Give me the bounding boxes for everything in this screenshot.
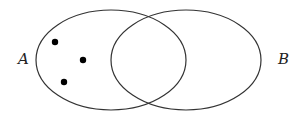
point-3 [61, 79, 67, 85]
point-2 [80, 57, 86, 63]
venn-svg: A B [0, 0, 302, 120]
venn-diagram: A B [0, 0, 302, 120]
set-b-label: B [277, 50, 289, 68]
set-a-label: A [16, 50, 29, 68]
point-1 [52, 39, 58, 45]
